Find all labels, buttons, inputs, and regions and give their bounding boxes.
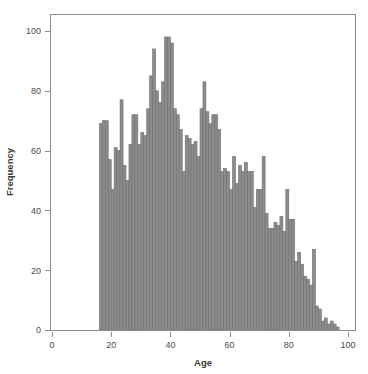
histogram-bar <box>227 172 230 330</box>
histogram-bar <box>182 172 185 330</box>
histogram-bar <box>324 318 327 330</box>
histogram-bar <box>203 82 206 330</box>
histogram-bar <box>108 160 111 330</box>
x-tick-label: 40 <box>165 340 175 350</box>
histogram-bar <box>253 207 256 330</box>
histogram-bar <box>256 189 259 330</box>
histogram-figure: 020406080100 020406080100 Age Frequency <box>0 0 368 374</box>
histogram-bar <box>123 166 126 330</box>
histogram-bar <box>144 136 147 330</box>
histogram-bar <box>301 264 304 330</box>
histogram-bar <box>312 249 315 330</box>
histogram-bar <box>179 130 182 330</box>
histogram-bar <box>274 222 277 330</box>
histogram-bar <box>262 157 265 330</box>
histogram-bar <box>330 321 333 330</box>
histogram-bar <box>194 142 197 330</box>
histogram-bar <box>212 115 215 330</box>
histogram-bar <box>250 172 253 330</box>
x-tick-label: 60 <box>225 340 235 350</box>
histogram-bar <box>310 285 313 330</box>
histogram-bar <box>247 172 250 330</box>
histogram-bar <box>315 306 318 330</box>
histogram-bar <box>295 261 298 330</box>
histogram-bar <box>159 103 162 330</box>
histogram-bar <box>221 172 224 330</box>
y-axis-title: Frequency <box>4 147 15 196</box>
histogram-bar <box>318 309 321 330</box>
histogram-bar <box>241 172 244 330</box>
histogram-bar <box>197 157 200 330</box>
histogram-bar <box>120 100 123 330</box>
histogram-bar <box>280 216 283 330</box>
histogram-bar <box>200 109 203 330</box>
histogram-bar <box>102 121 105 330</box>
x-tick-label: 80 <box>284 340 294 350</box>
histogram-bar <box>114 148 117 330</box>
histogram-bar <box>336 327 339 330</box>
histogram-bar <box>126 181 129 331</box>
histogram-bar <box>170 43 173 330</box>
histogram-bar <box>283 231 286 330</box>
histogram-bar <box>191 145 194 330</box>
histogram-bar <box>327 324 330 330</box>
y-axis-ticks: 020406080100 <box>26 26 50 335</box>
histogram-bar <box>176 115 179 330</box>
histogram-bar <box>236 183 239 330</box>
histogram-bar <box>230 189 233 330</box>
histogram-bar <box>147 109 150 330</box>
histogram-plot: 020406080100 020406080100 Age Frequency <box>0 0 368 374</box>
histogram-bar <box>105 121 108 330</box>
histogram-bar <box>209 124 212 330</box>
histogram-bar <box>156 91 159 330</box>
y-tick-label: 80 <box>31 86 41 96</box>
histogram-bar <box>333 324 336 330</box>
histogram-bar <box>304 276 307 330</box>
histogram-bar <box>173 109 176 330</box>
histogram-bar <box>268 228 271 330</box>
histogram-bar <box>321 321 324 330</box>
histogram-bar <box>215 115 218 330</box>
histogram-bar <box>138 145 141 330</box>
histogram-bar <box>167 37 170 330</box>
histogram-bar <box>259 189 262 330</box>
x-tick-label: 0 <box>49 340 54 350</box>
histogram-bar <box>132 115 135 330</box>
histogram-bar <box>289 219 292 330</box>
histogram-bars <box>99 37 339 330</box>
histogram-bar <box>129 145 132 330</box>
histogram-bar <box>218 130 221 330</box>
y-tick-label: 40 <box>31 206 41 216</box>
histogram-bar <box>188 139 191 330</box>
histogram-bar <box>150 76 153 330</box>
y-tick-label: 100 <box>26 26 41 36</box>
histogram-bar <box>185 136 188 330</box>
histogram-bar <box>286 189 289 330</box>
histogram-bar <box>224 169 227 330</box>
histogram-bar <box>162 82 165 330</box>
histogram-bar <box>135 115 138 330</box>
histogram-bar <box>153 49 156 330</box>
y-tick-label: 0 <box>36 325 41 335</box>
histogram-bar <box>271 228 274 330</box>
histogram-bar <box>233 157 236 330</box>
histogram-bar <box>244 163 247 330</box>
histogram-bar <box>141 133 144 330</box>
histogram-bar <box>117 151 120 330</box>
y-tick-label: 60 <box>31 146 41 156</box>
histogram-bar <box>206 112 209 330</box>
histogram-bar <box>238 166 241 330</box>
x-axis-title: Age <box>194 357 212 368</box>
histogram-bar <box>307 279 310 330</box>
y-tick-label: 20 <box>31 266 41 276</box>
histogram-bar <box>164 37 167 330</box>
histogram-bar <box>99 124 102 330</box>
x-tick-label: 20 <box>106 340 116 350</box>
histogram-bar <box>111 189 114 330</box>
histogram-bar <box>277 225 280 330</box>
x-axis-ticks: 020406080100 <box>49 332 355 350</box>
histogram-bar <box>298 252 301 330</box>
x-tick-label: 100 <box>340 340 355 350</box>
histogram-bar <box>292 219 295 330</box>
histogram-bar <box>265 213 268 330</box>
